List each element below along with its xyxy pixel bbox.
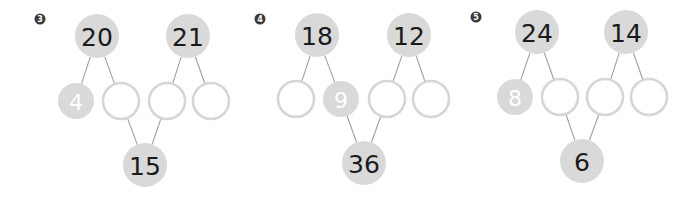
top-number-circle: 14 [604,10,648,54]
top-number-circle: 18 [295,13,339,57]
bottom-number: 6 [574,148,590,177]
problem-number: 5 [473,13,479,22]
top-number-circle: 21 [166,14,210,58]
given-factor: 4 [69,90,83,115]
bottom-number-circle: 15 [123,143,167,187]
problem-number: 4 [257,15,263,24]
bottom-number: 36 [348,150,380,179]
given-factor: 8 [508,86,522,111]
connector-line [82,57,91,84]
connector-line [544,53,554,80]
answer-blank-circle[interactable] [631,79,667,115]
problem-number: 3 [37,15,43,24]
top-number: 12 [393,22,425,51]
factor-tree-problem-5: 5241486 [471,10,668,183]
connector-line [371,116,380,142]
bottom-number: 15 [129,152,161,181]
bottom-number-circle: 36 [342,141,386,185]
top-number-circle: 20 [75,14,119,58]
connector-line [127,118,137,145]
answer-blank-circle[interactable] [149,83,185,119]
connector-line [521,53,530,80]
connector-line [347,116,356,142]
answer-blank-circle[interactable] [193,83,229,119]
given-factor-circle: 4 [58,83,94,119]
answer-blank-circle[interactable] [278,81,314,117]
connector-line [152,118,161,144]
connector-line [611,53,620,80]
factor-tree-worksheet: 32021415418129365241486 [0,0,700,200]
connector-line [589,114,598,140]
answer-blank-circle[interactable] [542,79,578,115]
connector-line [302,56,311,82]
answer-blank-circle[interactable] [103,83,139,119]
connector-line [105,57,115,84]
problem-number-badge: 4 [255,14,266,25]
connector-line [633,53,643,80]
top-number: 20 [81,23,113,52]
connector-line [566,114,575,140]
given-factor-circle: 8 [497,79,533,115]
problem-number-badge: 3 [35,14,46,25]
top-number: 18 [301,22,333,51]
connector-line [416,56,425,82]
connector-line [173,57,182,84]
connector-line [393,56,402,82]
top-number-circle: 12 [387,13,431,57]
connector-line [195,57,205,84]
given-factor-circle: 9 [323,81,359,117]
top-number: 21 [172,23,204,52]
top-number: 24 [521,19,553,48]
answer-blank-circle[interactable] [413,81,449,117]
problem-number-badge: 5 [471,12,482,23]
top-number: 14 [610,19,642,48]
given-factor: 9 [334,88,348,113]
factor-tree-problem-3: 32021415 [35,14,230,188]
top-number-circle: 24 [515,10,559,54]
bottom-number-circle: 6 [560,139,604,183]
answer-blank-circle[interactable] [587,79,623,115]
connector-line [325,56,335,83]
answer-blank-circle[interactable] [369,81,405,117]
factor-tree-problem-4: 41812936 [255,13,450,185]
